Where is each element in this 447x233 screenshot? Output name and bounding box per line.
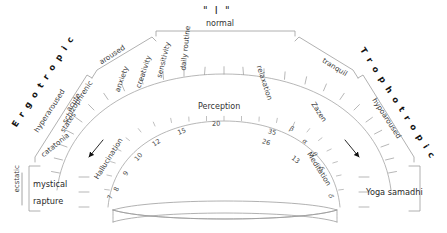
label-normal: normal (206, 20, 234, 28)
label-mystical: mystical (33, 180, 67, 188)
label-rapture: rapture (33, 197, 63, 205)
label-perception: Perception (198, 103, 240, 111)
perception-arc-outer (57, 74, 391, 190)
arrow-meditation-line (345, 140, 359, 157)
arrow-hallucination-line (89, 140, 103, 157)
diagram-title: " I " (203, 6, 232, 16)
endbox-left-ticks (79, 177, 89, 207)
scale-tick-35: 35 (267, 128, 277, 137)
label-yoga-samadhi: Yoga samadhi (366, 188, 423, 196)
label-ecstatic: ecstatic (14, 165, 21, 192)
diagram-canvas: " I " normal Perception E r g o t r o p … (0, 0, 447, 233)
scale-tick-20: 20 (212, 121, 221, 128)
bowtie-figure (113, 201, 337, 222)
bracket-normal (156, 31, 295, 36)
number-arc (108, 121, 340, 207)
